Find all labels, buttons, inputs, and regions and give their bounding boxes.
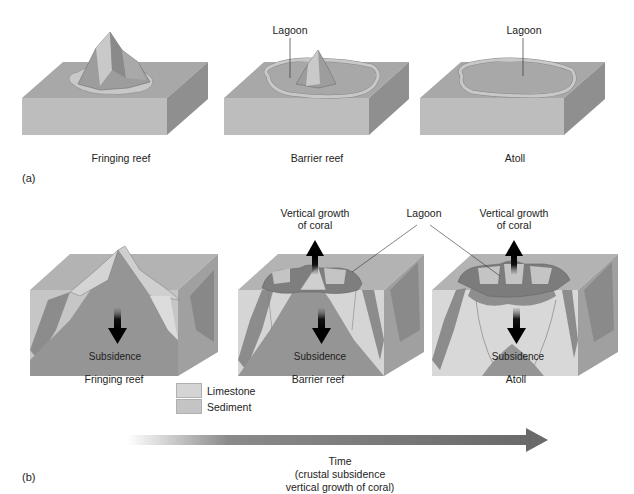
label-lagoon-a3: Lagoon <box>506 24 541 36</box>
label-barrier-reef-b: Barrier reef <box>292 373 345 385</box>
vertical-growth-line2: of coral <box>480 219 549 231</box>
legend-label-limestone: Limestone <box>207 385 255 397</box>
label-subsidence-b1: Subsidence <box>89 351 141 362</box>
panel-tag-a: (a) <box>22 172 35 184</box>
block-a-barrier <box>224 50 409 135</box>
label-subsidence-b2: Subsidence <box>294 351 346 362</box>
vertical-growth-line1: Vertical growth <box>480 207 549 219</box>
time-arrow-icon <box>128 428 548 452</box>
block-a-atoll <box>420 60 605 136</box>
label-lagoon-a2: Lagoon <box>272 24 307 36</box>
legend-label-sediment: Sediment <box>207 401 251 413</box>
legend: Limestone Sediment <box>176 383 255 415</box>
label-lagoon-b: Lagoon <box>406 207 441 219</box>
label-subsidence-b3: Subsidence <box>492 351 544 362</box>
label-fringing-reef-a: Fringing reef <box>92 152 151 164</box>
limestone-swatch <box>176 383 202 398</box>
label-barrier-reef-a: Barrier reef <box>291 152 344 164</box>
time-label: Time <box>286 455 395 468</box>
vertical-growth-line2: of coral <box>281 219 350 231</box>
block-a-fringing <box>22 32 208 135</box>
label-atoll-b: Atoll <box>506 373 526 385</box>
legend-item-limestone: Limestone <box>176 383 255 398</box>
vertical-growth-line1: Vertical growth <box>281 207 350 219</box>
sediment-swatch <box>176 399 202 414</box>
time-sub-line2: vertical growth of coral) <box>286 481 395 494</box>
label-vertical-growth-b3: Vertical growth of coral <box>480 207 549 231</box>
label-fringing-reef-b: Fringing reef <box>85 373 144 385</box>
time-sub-line1: (crustal subsidence <box>286 468 395 481</box>
label-atoll-a: Atoll <box>505 152 525 164</box>
panel-tag-b: (b) <box>22 471 35 483</box>
label-vertical-growth-b2: Vertical growth of coral <box>281 207 350 231</box>
time-caption: Time (crustal subsidence vertical growth… <box>286 455 395 494</box>
legend-item-sediment: Sediment <box>176 399 255 414</box>
